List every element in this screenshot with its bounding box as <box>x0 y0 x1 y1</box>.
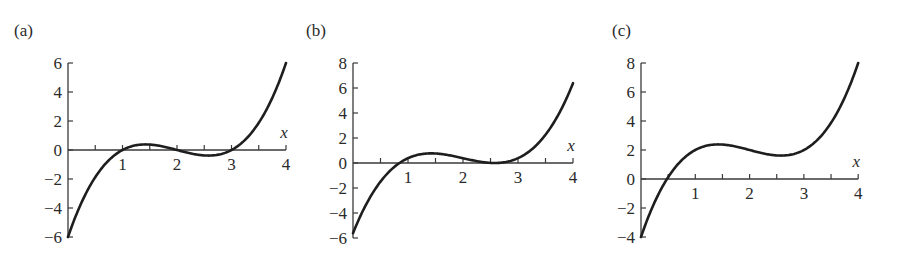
x-tick-label: 2 <box>173 155 182 174</box>
x-axis-label: x <box>279 123 288 142</box>
y-tick-label: −2 <box>329 179 347 198</box>
function-curve <box>353 83 573 233</box>
panel-a: (a) −6−4−20246 1234 x <box>14 21 291 247</box>
panel-c: (c) −4−202468 1234 x <box>612 21 863 247</box>
x-tick-label: 2 <box>745 184 754 203</box>
x-tick-label: 4 <box>854 184 863 203</box>
y-tick-label: 0 <box>339 154 348 173</box>
y-tick-label: 2 <box>339 129 348 148</box>
panel-label: (c) <box>612 21 631 40</box>
x-tick-label: 4 <box>569 168 578 187</box>
y-tick-label: 8 <box>627 54 636 73</box>
y-tick-label: 2 <box>54 112 63 131</box>
x-tick-label: 3 <box>800 184 809 203</box>
x-tick-label: 2 <box>459 168 468 187</box>
y-tick-label: 4 <box>627 112 636 131</box>
function-curve <box>641 63 858 237</box>
y-tick-label: 8 <box>339 54 348 73</box>
y-tick-label: 6 <box>54 54 63 73</box>
y-tick-label: −4 <box>44 199 63 218</box>
panel-b: (b) −6−4−202468 1234 x <box>306 21 578 248</box>
panel-label: (a) <box>14 21 33 40</box>
x-tick-label: 3 <box>514 168 523 187</box>
y-tick-label: 4 <box>54 83 63 102</box>
y-tick-label: −4 <box>617 228 636 247</box>
x-axis-label: x <box>566 136 575 155</box>
x-axis-label: x <box>851 152 860 171</box>
y-tick-label: −2 <box>44 170 62 189</box>
y-tick-label: 0 <box>627 170 636 189</box>
x-tick-label: 1 <box>691 184 700 203</box>
y-tick-label: −6 <box>44 228 62 247</box>
y-tick-label: 6 <box>339 79 348 98</box>
x-tick-label: 3 <box>227 155 236 174</box>
x-axis: 1234 <box>641 174 863 203</box>
y-axis: −4−202468 <box>617 54 646 247</box>
x-tick-label: 1 <box>118 155 127 174</box>
y-tick-label: 2 <box>627 141 636 160</box>
y-tick-label: −4 <box>329 204 348 223</box>
x-tick-label: 4 <box>282 155 291 174</box>
figure: (a) −6−4−20246 1234 x (b) −6−4−202468 12… <box>0 0 899 259</box>
y-tick-label: 6 <box>627 83 636 102</box>
y-axis: −6−4−202468 <box>329 54 358 248</box>
y-tick-label: 0 <box>54 141 63 160</box>
y-tick-label: 4 <box>339 104 348 123</box>
panel-label: (b) <box>306 21 326 40</box>
y-tick-label: −6 <box>329 229 347 248</box>
x-tick-label: 1 <box>404 168 413 187</box>
y-tick-label: −2 <box>617 199 635 218</box>
